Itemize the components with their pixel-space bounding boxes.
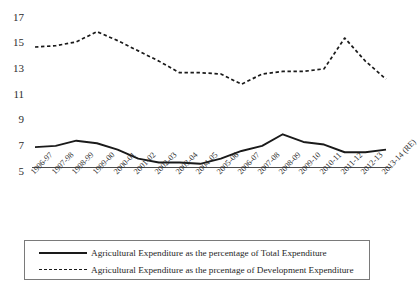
legend-label-development-expenditure: Agricultural Expenditure as the prcentag…	[91, 265, 354, 276]
y-axis-tick-9: 9	[2, 114, 24, 125]
series-line-development-expenditure	[35, 32, 386, 85]
legend-item-development-expenditure: Agricultural Expenditure as the prcentag…	[25, 261, 369, 279]
y-axis-tick-7: 7	[2, 140, 24, 151]
dashed-line-key-icon	[35, 264, 91, 276]
legend-item-total-expenditure: Agricultural Expenditure as the percenta…	[25, 244, 369, 262]
x-axis-tick-labels: 1996-971997-981998-991999-002000-012001-…	[0, 168, 396, 230]
y-axis-tick-11: 11	[2, 89, 24, 100]
legend: Agricultural Expenditure as the percenta…	[24, 240, 370, 280]
series-layer	[35, 32, 386, 164]
legend-label-total-expenditure: Agricultural Expenditure as the percenta…	[91, 248, 327, 259]
y-axis-tick-17: 17	[2, 12, 24, 23]
solid-line-key-icon	[35, 247, 91, 259]
y-axis-tick-13: 13	[2, 63, 24, 74]
y-axis-tick-15: 15	[2, 37, 24, 48]
